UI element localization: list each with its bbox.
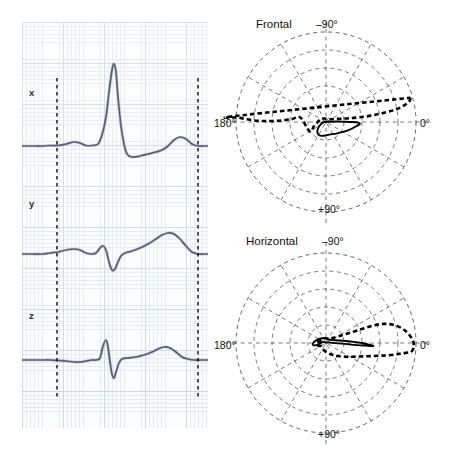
figure-root: x y z Frontal –90° 180° 0° +90° Horizont… xyxy=(0,0,464,457)
horizontal-axis-label-bottom: +90° xyxy=(318,428,340,440)
frontal-axis-label-right: 0° xyxy=(420,117,430,129)
lead-label-x: x xyxy=(29,88,34,98)
horizontal-axis-label-left: 180° xyxy=(214,339,236,351)
frontal-plot-title: Frontal xyxy=(256,18,292,30)
lead-label-z: z xyxy=(29,311,34,321)
horizontal-plot-title: Horizontal xyxy=(246,235,298,247)
horizontal-polar-plot: Horizontal –90° 180° 0° +90° xyxy=(222,231,464,453)
frontal-axis-label-left: 180° xyxy=(214,117,236,129)
horizontal-axis-label-right: 0° xyxy=(420,339,430,351)
frontal-axis-label-top: –90° xyxy=(316,18,338,30)
lead-label-y: y xyxy=(29,199,34,209)
ecg-traces-panel xyxy=(22,22,208,428)
ecg-waveform-svg xyxy=(22,22,208,428)
frontal-axis-label-bottom: +90° xyxy=(318,203,340,215)
frontal-polar-plot: Frontal –90° 180° 0° +90° xyxy=(222,14,464,230)
horizontal-axis-label-top: –90° xyxy=(322,235,344,247)
